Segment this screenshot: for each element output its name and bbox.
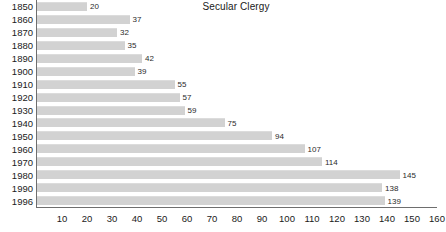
bar-value-label: 39 [138,67,147,76]
x-axis-tick-label: 70 [207,213,218,224]
bar [37,67,135,76]
chart-row: 187032 [37,26,437,39]
bar [37,106,185,115]
bar [37,28,117,37]
bar [37,131,272,140]
y-axis-tick-label: 1970 [12,156,33,167]
chart-row: 190039 [37,65,437,78]
bar [37,54,142,63]
bar [37,144,305,153]
x-axis-tick-label: 90 [257,213,268,224]
x-axis-tick-label: 150 [404,213,420,224]
y-axis-tick-label: 1960 [12,143,33,154]
bar-value-label: 75 [228,118,237,127]
plot-area: 1850201860371870321880351890421900391910… [37,0,437,207]
y-axis-tick-label: 1900 [12,66,33,77]
chart-row: 186037 [37,13,437,26]
x-axis-tick-label: 40 [132,213,143,224]
bar-value-label: 139 [388,196,401,205]
chart-row: 192057 [37,91,437,104]
chart-row: 191055 [37,78,437,91]
x-axis-tick-label: 80 [232,213,243,224]
y-axis-tick-label: 1996 [12,195,33,206]
chart-row: 1990138 [37,181,437,194]
y-axis-tick-label: 1990 [12,182,33,193]
x-axis-tick-label: 20 [82,213,93,224]
x-axis-tick-label: 110 [304,213,319,224]
y-axis-tick-label: 1860 [12,14,33,25]
chart-row: 1996139 [37,194,437,207]
y-axis-tick-label: 1980 [12,169,33,180]
bar-value-label: 55 [178,80,187,89]
bar-value-label: 145 [403,170,416,179]
bar [37,41,125,50]
bar-value-label: 59 [188,105,197,114]
chart-row: 188035 [37,39,437,52]
x-axis-ticks: 102030405060708090100110120130140150160 [37,209,437,229]
x-axis-line [36,207,437,208]
x-axis-tick-label: 140 [379,213,395,224]
chart-row: 189042 [37,52,437,65]
bar [37,118,225,127]
bar [37,157,322,166]
bar-value-label: 107 [308,144,321,153]
y-axis-tick-label: 1910 [12,79,33,90]
bar-value-label: 57 [183,93,192,102]
bar-value-label: 94 [275,131,284,140]
y-axis-tick-label: 1920 [12,92,33,103]
x-axis-tick-label: 60 [182,213,193,224]
x-axis-tick-label: 120 [329,213,345,224]
x-axis-tick-label: 10 [57,213,68,224]
bar-chart: Secular Clergy 1850201860371870321880351… [0,0,446,232]
y-axis-tick-label: 1870 [12,27,33,38]
chart-row: 1970114 [37,155,437,168]
x-axis-tick-label: 50 [157,213,168,224]
y-axis-tick-label: 1880 [12,40,33,51]
bar-value-label: 37 [133,15,142,24]
x-axis-tick-label: 100 [279,213,295,224]
bar [37,15,130,24]
x-axis-tick-label: 30 [107,213,118,224]
chart-row: 194075 [37,116,437,129]
bar [37,93,180,102]
bar-value-label: 20 [90,2,99,11]
chart-row: 185020 [37,0,437,13]
y-axis-tick-label: 1940 [12,117,33,128]
bar-value-label: 114 [325,157,338,166]
bar [37,196,385,205]
y-axis-tick-label: 1890 [12,53,33,64]
chart-row: 195094 [37,129,437,142]
bar [37,80,175,89]
bar-value-label: 35 [128,41,137,50]
bar-value-label: 32 [120,28,129,37]
chart-row: 1980145 [37,168,437,181]
bar [37,2,87,11]
bar-value-label: 138 [385,183,398,192]
bar-value-label: 42 [145,54,154,63]
chart-row: 193059 [37,104,437,117]
y-axis-tick-label: 1850 [12,1,33,12]
x-axis-tick-label: 160 [429,213,445,224]
chart-row: 1960107 [37,142,437,155]
x-axis-tick-label: 130 [354,213,370,224]
y-axis-tick-label: 1930 [12,104,33,115]
bar [37,170,400,179]
bar [37,183,382,192]
y-axis-tick-label: 1950 [12,130,33,141]
